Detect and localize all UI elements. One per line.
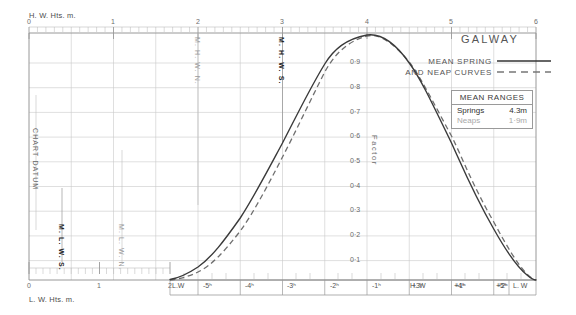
- datum-label-mhwn: M. H. W. N.: [194, 37, 201, 85]
- springs-label: Springs: [457, 106, 484, 115]
- time-tick-lw-left: L.W: [172, 282, 184, 289]
- bottom-tick-1: 1: [97, 282, 101, 289]
- springs-value: 4.3m: [509, 106, 527, 115]
- time-tick-minus4: -4ʰ: [245, 282, 254, 289]
- time-tick-plus5: +5ʰ: [496, 282, 507, 289]
- bottom-tick-0: 0: [27, 282, 31, 289]
- top-tick-1: 1: [111, 18, 115, 25]
- neaps-label: Neaps: [457, 116, 480, 125]
- top-tick-3: 3: [280, 18, 284, 25]
- datum-label-mlwn: M. L. W. N.: [118, 224, 125, 271]
- factor-tick-0.9: 0·9: [350, 58, 360, 65]
- mean-ranges-neaps-row: Neaps 1·9m: [452, 115, 532, 128]
- time-tick-lw-right: L. W: [513, 282, 527, 289]
- datum-label-mlws: M. L. W. S.: [58, 224, 65, 271]
- top-tick-5: 5: [449, 18, 453, 25]
- legend-label-line2: AND NEAP CURVES: [382, 67, 492, 78]
- bottom-axis-caption: L. W. Hts. m.: [29, 295, 75, 304]
- top-tick-4: 4: [365, 18, 369, 25]
- factor-tick-0.1: 0·1: [350, 256, 360, 263]
- factor-tick-0.3: 0·3: [350, 206, 360, 213]
- time-tick-minus3: -3ʰ: [287, 282, 296, 289]
- neaps-value: 1·9m: [509, 116, 527, 125]
- chart-title: GALWAY: [461, 33, 519, 45]
- factor-tick-0.7: 0·7: [350, 108, 360, 115]
- top-tick-2: 2: [196, 18, 200, 25]
- legend-line-samples: [497, 56, 553, 80]
- time-tick-minus2: -2ʰ: [330, 282, 339, 289]
- mean-ranges-box: MEAN RANGES Springs 4.3m Neaps 1·9m: [451, 90, 533, 129]
- top-axis-caption: H. W. Hts. m.: [29, 11, 76, 20]
- legend-label-line1: MEAN SPRING: [382, 56, 492, 67]
- factor-tick-0.8: 0·8: [350, 83, 360, 90]
- time-tick-minus1: -1ʰ: [372, 282, 381, 289]
- factor-tick-0.6: 0·6: [350, 132, 360, 139]
- factor-tick-0.5: 0·5: [350, 157, 360, 164]
- time-tick-minus5: -5ʰ: [203, 282, 212, 289]
- time-tick-plus4: +4ʰ: [454, 282, 465, 289]
- datum-label-chart-datum: CHART DATUM: [32, 128, 39, 190]
- factor-tick-0.2: 0·2: [350, 231, 360, 238]
- factor-axis-label: Factor: [370, 135, 379, 166]
- time-tick-plus3: +3ʰ: [412, 282, 423, 289]
- datum-label-mhws: M. H. W. S.: [278, 37, 285, 85]
- mean-ranges-springs-row: Springs 4.3m: [452, 105, 532, 115]
- factor-tick-0.4: 0·4: [350, 182, 360, 189]
- top-tick-6: 6: [534, 18, 538, 25]
- mean-ranges-heading: MEAN RANGES: [452, 91, 532, 105]
- tidal-curve-diagram: [0, 0, 576, 315]
- top-tick-0: 0: [27, 18, 31, 25]
